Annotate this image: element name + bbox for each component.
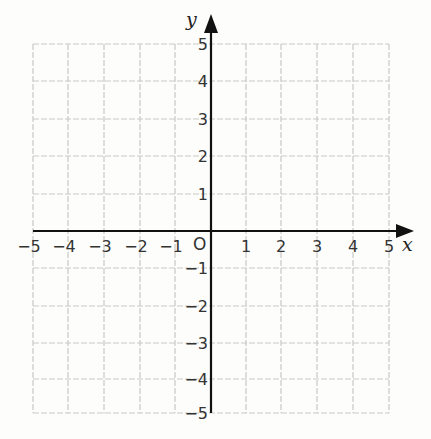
y-tick-label: 4 bbox=[198, 72, 208, 91]
y-tick-label: 2 bbox=[198, 147, 208, 166]
x-tick-label: −4 bbox=[52, 237, 76, 256]
y-tick-label: 3 bbox=[198, 110, 208, 129]
y-tick-label: −1 bbox=[184, 259, 208, 278]
origin-label: O bbox=[193, 234, 206, 254]
y-tick-label: −3 bbox=[184, 334, 208, 353]
x-tick-label: −1 bbox=[159, 237, 183, 256]
y-tick-label: 1 bbox=[198, 185, 208, 204]
x-tick-label: −3 bbox=[88, 237, 112, 256]
x-tick-label: 5 bbox=[384, 237, 394, 256]
coordinate-plane: −5−4−3−2−11234554321−1−2−3−4−5 x y O bbox=[0, 0, 431, 439]
x-tick-label: 4 bbox=[348, 237, 358, 256]
y-tick-label: −5 bbox=[184, 404, 208, 423]
x-axis-label: x bbox=[402, 233, 413, 255]
x-tick-label: 3 bbox=[312, 237, 322, 256]
x-tick-label: 2 bbox=[276, 237, 286, 256]
x-tick-label: −5 bbox=[17, 237, 41, 256]
y-tick-label: 5 bbox=[198, 35, 208, 54]
tick-labels: −5−4−3−2−11234554321−1−2−3−4−5 bbox=[17, 35, 394, 423]
y-tick-label: −4 bbox=[184, 370, 208, 389]
x-tick-label: −2 bbox=[124, 237, 148, 256]
y-tick-label: −2 bbox=[184, 297, 208, 316]
y-axis-label: y bbox=[185, 8, 197, 30]
y-axis-arrow-icon bbox=[204, 14, 218, 33]
axes bbox=[33, 14, 414, 413]
x-tick-label: 1 bbox=[241, 237, 251, 256]
